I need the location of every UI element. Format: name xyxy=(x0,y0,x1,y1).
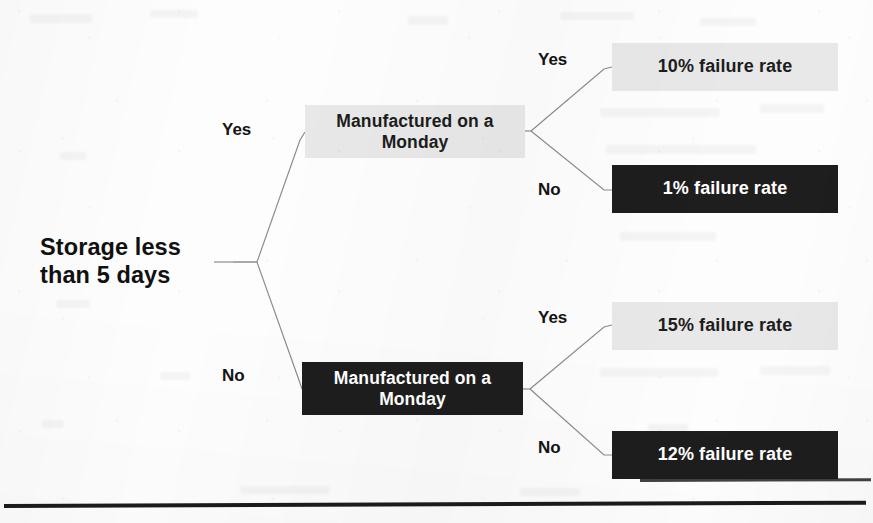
leaf-node-12-percent-failure-rate[interactable]: 12% failure rate xyxy=(612,431,838,479)
decision-node-top-line2: Monday xyxy=(336,132,493,153)
decision-tree-figure: Storage less than 5 days Manufactured on… xyxy=(0,0,873,523)
decision-node-bottom-line1: Manufactured on a xyxy=(334,368,491,389)
edge-label-root-yes: Yes xyxy=(222,120,251,140)
edge-label-bottom-no: No xyxy=(538,438,561,458)
leaf-node-10-percent-failure-rate[interactable]: 10% failure rate xyxy=(612,43,838,91)
leaf-label: 15% failure rate xyxy=(658,315,793,336)
leaf-node-1-percent-failure-rate[interactable]: 1% failure rate xyxy=(612,165,838,213)
edge-top-yes xyxy=(531,67,612,131)
edge-label-bottom-yes: Yes xyxy=(538,308,567,328)
root-node-line2: than 5 days xyxy=(40,262,181,290)
root-node-storage-less-than-5-days[interactable]: Storage less than 5 days xyxy=(40,226,220,298)
edge-root-yes xyxy=(233,132,305,262)
edge-label-top-yes: Yes xyxy=(538,50,567,70)
edge-bottom-yes xyxy=(530,325,612,389)
decision-node-manufactured-monday-bottom[interactable]: Manufactured on a Monday xyxy=(302,362,523,415)
leaf-label: 12% failure rate xyxy=(658,444,793,465)
decision-node-manufactured-monday-top[interactable]: Manufactured on a Monday xyxy=(305,105,525,158)
leaf-node-15-percent-failure-rate[interactable]: 15% failure rate xyxy=(612,302,838,350)
decision-node-top-line1: Manufactured on a xyxy=(336,111,493,132)
edge-label-top-no: No xyxy=(538,180,561,200)
leaf-label: 1% failure rate xyxy=(663,178,788,199)
decision-node-bottom-line2: Monday xyxy=(334,389,491,410)
leaf-label: 10% failure rate xyxy=(658,56,793,77)
edge-label-root-no: No xyxy=(222,366,245,386)
root-node-line1: Storage less xyxy=(40,234,181,262)
